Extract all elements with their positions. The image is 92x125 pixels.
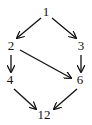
- node-12: 12: [38, 107, 51, 122]
- edge-2-to-6: [20, 50, 71, 78]
- node-3: 3: [78, 38, 85, 53]
- edge-4-to-12: [14, 89, 36, 109]
- node-2: 2: [8, 38, 15, 53]
- node-4: 4: [7, 72, 14, 87]
- node-1: 1: [43, 4, 50, 19]
- edge-6-to-12: [54, 89, 77, 109]
- edge-1-to-2: [17, 18, 41, 38]
- edge-1-to-3: [52, 18, 76, 38]
- node-6: 6: [77, 72, 84, 87]
- divisor-lattice-diagram: 1 2 3 4 6 12: [0, 0, 92, 125]
